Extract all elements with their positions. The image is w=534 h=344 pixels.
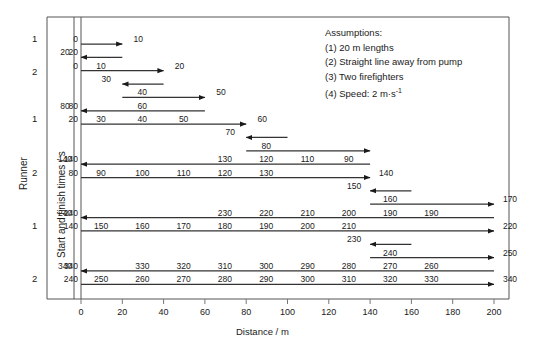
axis-time-label: 0 <box>46 61 78 71</box>
leg-time-label: 10 <box>87 61 115 71</box>
x-tick-label: 40 <box>148 307 180 317</box>
leg-time-label: 290 <box>294 261 322 271</box>
leg-time-label: 50 <box>170 114 198 124</box>
leg-time-label: 220 <box>252 208 280 218</box>
assumption-item-1: (1) 20 m lengths <box>325 41 462 56</box>
assumption-item-3: (3) Two firefighters <box>325 70 462 85</box>
leg-time-label: 180 <box>211 221 239 231</box>
runner-label: 1 <box>32 113 37 124</box>
leg-time-label: 210 <box>294 208 322 218</box>
leg-time-label: 120 <box>211 168 239 178</box>
leg-time-label: 240 <box>376 248 404 258</box>
leg-time-label: 260 <box>128 274 156 284</box>
leg-time-label: 310 <box>211 261 239 271</box>
leg-time-label: 100 <box>128 168 156 178</box>
leg-time-label: 200 <box>294 221 322 231</box>
leg-time-label: 270 <box>170 274 198 284</box>
x-tick-label: 60 <box>189 307 221 317</box>
leg-time-label: 190 <box>376 208 404 218</box>
leg-time-label: 320 <box>170 261 198 271</box>
runner-label: 1 <box>32 33 37 44</box>
x-tick-label: 180 <box>437 307 469 317</box>
leg-time-label: 250 <box>496 248 524 258</box>
leg-time-label: 40 <box>128 114 156 124</box>
leg-time-label: 250 <box>87 274 115 284</box>
figure-root: 1020102030405060803040506070801101201309… <box>0 0 534 344</box>
leg-time-label: 150 <box>87 221 115 231</box>
leg-time-label: 270 <box>376 261 404 271</box>
x-tick-label: 80 <box>230 307 262 317</box>
leg-time-label: 200 <box>335 208 363 218</box>
x-axis-title: Distance / m <box>236 326 289 337</box>
leg-time-label: 280 <box>335 261 363 271</box>
runner-label: 1 <box>32 220 37 231</box>
leg-time-label: 160 <box>128 221 156 231</box>
leg-time-label: 10 <box>124 34 152 44</box>
leg-time-label: 290 <box>252 274 280 284</box>
leg-time-label: 310 <box>335 274 363 284</box>
leg-time-label: 20 <box>166 61 194 71</box>
x-tick-label: 0 <box>65 307 97 317</box>
leg-time-label: 230 <box>340 234 368 244</box>
leg-time-label: 220 <box>496 221 524 231</box>
runner-label: 2 <box>32 273 37 284</box>
leg-time-label: 330 <box>128 261 156 271</box>
leg-time-label: 130 <box>252 168 280 178</box>
axis-time-label: 20 <box>46 47 78 57</box>
leg-time-label: 330 <box>417 274 445 284</box>
leg-time-label: 150 <box>340 181 368 191</box>
outer-axis-title: Runner <box>18 157 29 190</box>
x-tick-label: 100 <box>272 307 304 317</box>
axis-time-label: 240 <box>46 274 78 284</box>
leg-time-label: 30 <box>87 114 115 124</box>
leg-time-label: 80 <box>252 141 280 151</box>
leg-time-label: 90 <box>87 168 115 178</box>
x-axis-ticks <box>81 299 494 304</box>
leg-time-label: 130 <box>211 154 239 164</box>
leg-time-label: 140 <box>372 168 400 178</box>
leg-time-label: 110 <box>170 168 198 178</box>
assumptions-block: Assumptions: (1) 20 m lengths (2) Straig… <box>325 26 462 102</box>
leg-time-label: 300 <box>252 261 280 271</box>
runner-label: 2 <box>32 66 37 77</box>
assumption-item-2: (2) Straight line away from pump <box>325 55 462 70</box>
leg-time-label: 60 <box>128 101 156 111</box>
y-axis-title: Start and finish times / s <box>56 151 67 258</box>
leg-time-label: 50 <box>207 87 235 97</box>
leg-time-label: 170 <box>496 194 524 204</box>
leg-time-label: 30 <box>92 74 120 84</box>
leg-time-label: 190 <box>252 221 280 231</box>
x-tick-label: 120 <box>313 307 345 317</box>
x-tick-label: 20 <box>106 307 138 317</box>
leg-time-label: 110 <box>294 154 322 164</box>
leg-time-label: 340 <box>496 274 524 284</box>
assumption-item-4-exponent: -1 <box>396 87 402 94</box>
axis-time-label: 80 <box>46 101 78 111</box>
leg-time-label: 90 <box>335 154 363 164</box>
runner-label: 2 <box>32 167 37 178</box>
leg-time-label: 40 <box>128 87 156 97</box>
leg-time-label: 170 <box>170 221 198 231</box>
axis-time-label: 0 <box>46 34 78 44</box>
leg-time-label: 230 <box>211 208 239 218</box>
assumptions-heading: Assumptions: <box>325 26 462 41</box>
assumption-item-4-text: (4) Speed: 2 m·s <box>325 88 396 99</box>
x-tick-label: 200 <box>478 307 510 317</box>
leg-time-label: 160 <box>376 194 404 204</box>
leg-time-label: 70 <box>216 127 244 137</box>
leg-time-label: 60 <box>248 114 276 124</box>
x-tick-label: 140 <box>354 307 386 317</box>
assumption-item-4: (4) Speed: 2 m·s-1 <box>325 84 462 102</box>
leg-time-label: 190 <box>417 208 445 218</box>
axis-time-label: 340 <box>46 261 78 271</box>
leg-time-label: 320 <box>376 274 404 284</box>
leg-time-label: 120 <box>252 154 280 164</box>
x-tick-label: 160 <box>395 307 427 317</box>
leg-time-label: 210 <box>335 221 363 231</box>
axis-time-label: 20 <box>46 114 78 124</box>
leg-time-label: 260 <box>417 261 445 271</box>
leg-time-label: 300 <box>294 274 322 284</box>
leg-time-label: 280 <box>211 274 239 284</box>
